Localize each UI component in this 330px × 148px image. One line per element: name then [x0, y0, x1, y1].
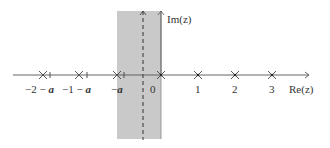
tick-label-0: 0: [150, 83, 156, 95]
tick-2-text: 2: [232, 83, 238, 95]
tick-ma-a: a: [117, 83, 123, 95]
tick-3-text: 3: [269, 83, 275, 95]
tick-label-3: 3: [269, 83, 275, 95]
tick-m2a-a: a: [48, 83, 54, 95]
contour-diagram: [0, 0, 330, 148]
imaginary-axis-label: Im(z): [167, 13, 191, 25]
tick-label-1: 1: [195, 83, 201, 95]
tick-0-text: 0: [150, 83, 156, 95]
tick-m2a-prefix: −2 −: [25, 83, 48, 95]
im-label-text: Im(z): [167, 13, 191, 25]
real-axis-label: Re(z): [289, 83, 313, 95]
re-label-text: Re(z): [289, 83, 313, 95]
tick-label-ma: −a: [111, 83, 123, 95]
tick-label-2: 2: [232, 83, 238, 95]
tick-m1a-prefix: −1 −: [62, 83, 85, 95]
tick-label-m1a: −1 − a: [62, 83, 91, 95]
tick-label-m2a: −2 − a: [25, 83, 54, 95]
tick-1-text: 1: [195, 83, 201, 95]
tick-m1a-a: a: [85, 83, 91, 95]
